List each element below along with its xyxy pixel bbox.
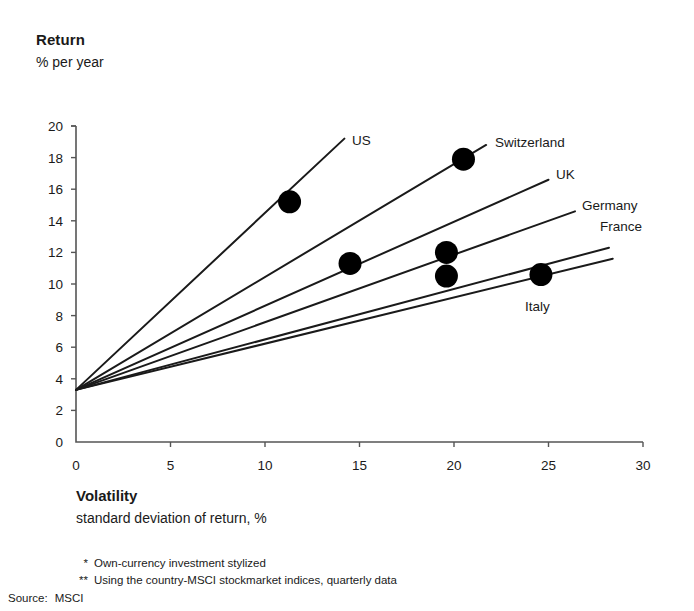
y-tick-label: 18	[48, 151, 63, 166]
source-line: Source:MSCI	[8, 592, 83, 604]
footnote-marker: *	[70, 555, 88, 572]
x-tick-label: 20	[446, 458, 461, 473]
y-tick-label: 6	[55, 340, 63, 355]
series-label: France	[600, 219, 642, 234]
data-point-marker	[339, 252, 362, 275]
series-label: Italy	[525, 299, 550, 314]
source-value: MSCI	[55, 592, 84, 604]
series-label: Switzerland	[495, 135, 565, 150]
footnote-row: **Using the country-MSCI stockmarket ind…	[70, 572, 397, 589]
y-tick-label: 16	[48, 182, 63, 197]
x-axis-title-block: Volatility standard deviation of return,…	[76, 486, 267, 528]
x-tick-label: 10	[257, 458, 272, 473]
y-tick-label: 0	[55, 435, 63, 450]
data-point-marker	[435, 265, 458, 288]
data-point-marker	[435, 241, 458, 264]
capital-market-line	[76, 139, 344, 390]
capital-market-line	[76, 145, 486, 390]
y-tick-label: 10	[48, 277, 63, 292]
footnote-marker: **	[70, 572, 88, 589]
x-axis-title: Volatility	[76, 486, 267, 506]
data-point-marker	[278, 190, 301, 213]
y-tick-label: 2	[55, 403, 63, 418]
data-point-marker	[452, 148, 475, 171]
y-tick-label: 20	[48, 119, 63, 134]
y-tick-label: 12	[48, 245, 63, 260]
footnotes-block: *Own-currency investment stylized**Using…	[70, 555, 397, 589]
source-label: Source:	[8, 592, 48, 604]
series-label: UK	[556, 167, 575, 182]
series-label: Germany	[582, 198, 638, 213]
data-point-marker	[529, 263, 552, 286]
footnote-text: Own-currency investment stylized	[94, 555, 266, 572]
y-tick-label: 4	[55, 372, 63, 387]
y-tick-label: 14	[48, 214, 64, 229]
capital-market-line	[76, 211, 575, 390]
x-tick-label: 0	[72, 458, 80, 473]
y-tick-label: 8	[55, 309, 63, 324]
footnote-row: *Own-currency investment stylized	[70, 555, 397, 572]
capital-market-line	[76, 180, 549, 390]
chart-data-points	[278, 148, 552, 288]
x-tick-label: 25	[541, 458, 556, 473]
x-tick-label: 15	[352, 458, 367, 473]
footnote-text: Using the country-MSCI stockmarket indic…	[94, 572, 397, 589]
series-label: US	[352, 133, 371, 148]
x-tick-label: 5	[167, 458, 175, 473]
x-tick-label: 30	[635, 458, 650, 473]
x-axis-subtitle: standard deviation of return, %	[76, 508, 267, 528]
